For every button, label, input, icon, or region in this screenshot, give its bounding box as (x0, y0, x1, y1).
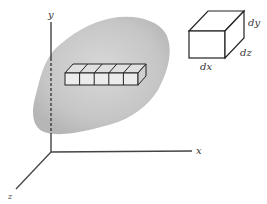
dx-label: dx (200, 61, 212, 72)
z-axis-label: z (7, 192, 13, 201)
x-axis-label: x (196, 145, 202, 156)
diagram-canvas: y x z dy dz dx (0, 0, 267, 204)
x-axis (51, 151, 192, 152)
z-axis (16, 152, 51, 189)
element-bar (65, 64, 146, 85)
dy-label: dy (248, 17, 260, 28)
dz-label: dz (240, 47, 252, 58)
differential-cube (189, 11, 244, 58)
y-axis-label: y (47, 9, 54, 20)
